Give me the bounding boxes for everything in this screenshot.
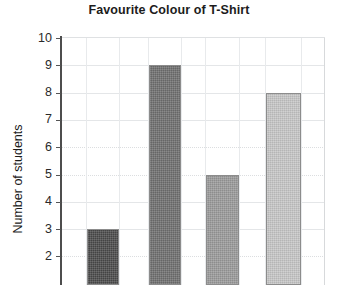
plot-right-border bbox=[324, 38, 325, 285]
y-tick-mark-7 bbox=[56, 120, 61, 121]
y-tick-mark-10 bbox=[56, 38, 61, 39]
y-tick-label-text: 7 bbox=[26, 113, 52, 126]
y-tick-mark-8 bbox=[56, 93, 61, 94]
plot-area bbox=[61, 38, 325, 285]
y-tick-label-text: 10 bbox=[26, 32, 52, 45]
y-tick-label-text: 9 bbox=[26, 59, 52, 72]
y-axis-line bbox=[60, 36, 62, 285]
y-tick-label-7: 7 bbox=[22, 113, 52, 126]
bar-1 bbox=[87, 229, 119, 285]
y-tick-label-text: 8 bbox=[26, 86, 52, 99]
bar-2 bbox=[149, 65, 181, 285]
chart-title: Favourite Colour of T-Shirt bbox=[0, 3, 338, 17]
y-tick-label-text: 6 bbox=[26, 141, 52, 154]
gridline-x-3 bbox=[181, 38, 182, 285]
y-tick-label-text: 4 bbox=[26, 195, 52, 208]
y-tick-mark-5 bbox=[56, 175, 61, 176]
y-tick-label-10: 10 bbox=[22, 32, 52, 45]
y-tick-label-5: 5 bbox=[22, 168, 52, 181]
bar-3 bbox=[206, 175, 239, 285]
y-tick-label-text: 5 bbox=[26, 168, 52, 181]
plot-top-border bbox=[61, 37, 325, 38]
y-tick-mark-3 bbox=[56, 229, 61, 230]
gridline-x-5 bbox=[239, 38, 240, 285]
y-tick-label-text: 3 bbox=[26, 223, 52, 236]
y-tick-label-6: 6 bbox=[22, 141, 52, 154]
gridline-x-1 bbox=[119, 38, 120, 285]
y-tick-mark-2 bbox=[56, 256, 61, 257]
y-tick-label-2: 2 bbox=[22, 250, 52, 263]
y-tick-mark-9 bbox=[56, 65, 61, 66]
y-tick-mark-4 bbox=[56, 202, 61, 203]
y-tick-label-9: 9 bbox=[22, 59, 52, 72]
bar-chart: Favourite Colour of T-Shirt Number of st… bbox=[0, 0, 338, 285]
gridline-y-9 bbox=[61, 65, 325, 66]
y-tick-mark-6 bbox=[56, 147, 61, 148]
bar-4 bbox=[266, 93, 301, 285]
y-tick-label-text: 2 bbox=[26, 250, 52, 263]
y-tick-label-4: 4 bbox=[22, 195, 52, 208]
gridline-x-7 bbox=[301, 38, 302, 285]
y-tick-label-3: 3 bbox=[22, 223, 52, 236]
y-tick-label-8: 8 bbox=[22, 86, 52, 99]
